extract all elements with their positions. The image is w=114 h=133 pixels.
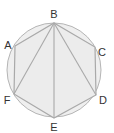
vertex-label-c: C [98, 46, 106, 58]
vertex-label-e: E [50, 121, 57, 133]
vertex-label-d: D [99, 94, 107, 106]
vertex-label-b: B [50, 8, 57, 20]
vertex-label-f: F [4, 94, 11, 106]
geometry-diagram: B A C F D E [0, 0, 114, 133]
vertex-label-a: A [4, 39, 12, 51]
